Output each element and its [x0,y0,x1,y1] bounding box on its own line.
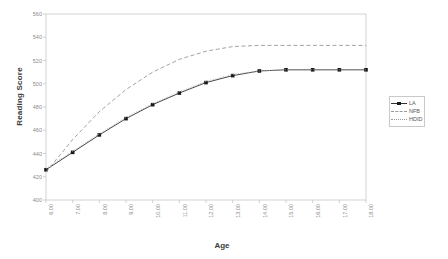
legend-swatch-nfb [391,108,407,115]
legend-item-hdid[interactable]: HDID [391,116,422,123]
series-line-nfb [46,45,366,172]
x-axis-tick-label: 6.00 [48,204,54,215]
chart-legend: LA NFB HDID [389,96,425,127]
x-axis-tick-label: 8.00 [102,204,108,215]
x-axis-tick-label: 16.00 [315,204,321,218]
y-axis-tick-label: 540 [16,34,42,40]
legend-label-nfb: NFB [409,108,420,115]
y-axis-title: Reading Score [15,52,24,142]
x-axis-tick-label: 13.00 [235,204,241,218]
data-point-marker [124,117,128,121]
legend-swatch-hdid [391,116,407,123]
x-axis-tick-label: 9.00 [128,204,134,215]
x-axis-tick-label: 15.00 [288,204,294,218]
x-axis-tick-labels: 6.007.008.009.0010.0011.0012.0013.0014.0… [0,200,448,240]
series-line-hdid [46,70,366,169]
legend-item-la[interactable]: LA [391,100,422,107]
legend-swatch-la [391,100,407,107]
x-axis-tick-label: 10.00 [155,204,161,218]
x-axis-tick-label: 12.00 [208,204,214,218]
x-axis-tick-label: 18.00 [368,204,374,218]
x-axis-tick-label: 14.00 [262,204,268,218]
chart-container: 400420440460480500520540560 6.007.008.00… [0,0,448,259]
series-line-la [46,70,366,170]
x-axis-tick-label: 11.00 [182,204,188,217]
legend-item-nfb[interactable]: NFB [391,108,422,115]
x-axis-title: Age [182,241,262,250]
data-point-marker [98,133,102,137]
legend-label-la: LA [409,100,416,107]
legend-label-hdid: HDID [409,116,422,123]
y-axis-tick-label: 420 [16,174,42,180]
y-axis-tick-label: 560 [16,11,42,17]
y-axis-tick-label: 440 [16,151,42,157]
data-point-marker [231,74,235,78]
x-axis-tick-label: 7.00 [75,204,81,215]
x-axis-tick-label: 17.00 [342,204,348,218]
